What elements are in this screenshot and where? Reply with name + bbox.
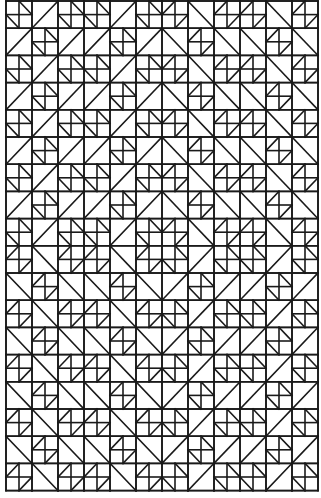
hst-diagonal (240, 137, 266, 164)
hst-diagonal (32, 409, 58, 436)
hst-diagonal (240, 327, 266, 354)
small-hst-diagonal (214, 477, 227, 491)
small-hst-diagonal (240, 423, 253, 437)
small-hst-diagonal (19, 368, 32, 382)
small-hst-diagonal (136, 178, 149, 192)
small-hst-diagonal (6, 178, 19, 192)
small-hst-diagonal (97, 1, 110, 15)
small-hst-diagonal (149, 314, 162, 328)
small-hst-diagonal (292, 314, 305, 328)
small-hst-diagonal (240, 259, 253, 273)
small-hst-diagonal (240, 1, 253, 15)
small-hst-diagonal (136, 15, 149, 29)
hst-diagonal (292, 137, 318, 164)
small-hst-diagonal (253, 232, 266, 246)
hst-diagonal (6, 83, 32, 110)
hst-diagonal (214, 137, 240, 164)
small-hst-diagonal (201, 436, 214, 450)
small-hst-diagonal (266, 341, 279, 355)
small-hst-diagonal (97, 259, 110, 273)
hst-diagonal (266, 300, 292, 327)
small-hst-diagonal (123, 137, 136, 151)
small-hst-diagonal (162, 423, 175, 437)
small-hst-diagonal (136, 355, 149, 369)
small-hst-diagonal (19, 423, 32, 437)
small-hst-diagonal (214, 55, 227, 69)
small-hst-diagonal (201, 42, 214, 56)
hst-diagonal (162, 28, 188, 55)
small-hst-diagonal (214, 368, 227, 382)
small-hst-diagonal (240, 55, 253, 69)
small-hst-diagonal (136, 69, 149, 83)
small-hst-diagonal (188, 395, 201, 409)
small-hst-diagonal (123, 28, 136, 42)
hst-diagonal (188, 55, 214, 82)
hst-diagonal (188, 164, 214, 191)
hst-diagonal (292, 28, 318, 55)
small-hst-diagonal (136, 300, 149, 314)
hst-diagonal (84, 436, 110, 463)
small-hst-diagonal (97, 110, 110, 124)
hst-diagonal (58, 382, 84, 409)
small-hst-diagonal (136, 463, 149, 477)
small-hst-diagonal (227, 300, 240, 314)
small-hst-diagonal (71, 477, 84, 491)
small-hst-diagonal (188, 341, 201, 355)
small-hst-diagonal (71, 110, 84, 124)
small-hst-diagonal (214, 1, 227, 15)
small-hst-diagonal (84, 123, 97, 137)
small-hst-diagonal (149, 164, 162, 178)
hst-diagonal (136, 191, 162, 218)
small-hst-diagonal (175, 15, 188, 29)
small-hst-diagonal (97, 368, 110, 382)
hst-diagonal (214, 191, 240, 218)
small-hst-diagonal (45, 395, 58, 409)
small-hst-diagonal (110, 151, 123, 165)
small-hst-diagonal (6, 15, 19, 29)
small-hst-diagonal (305, 463, 318, 477)
small-hst-diagonal (19, 477, 32, 491)
small-hst-diagonal (201, 205, 214, 219)
small-hst-diagonal (162, 219, 175, 233)
small-hst-diagonal (123, 287, 136, 301)
hst-diagonal (188, 409, 214, 436)
hst-diagonal (32, 55, 58, 82)
quilt-pattern (0, 0, 321, 498)
hst-diagonal (6, 28, 32, 55)
small-hst-diagonal (292, 423, 305, 437)
hst-diagonal (214, 382, 240, 409)
small-hst-diagonal (201, 327, 214, 341)
hst-diagonal (84, 273, 110, 300)
hst-diagonal (214, 273, 240, 300)
small-hst-diagonal (84, 409, 97, 423)
small-hst-diagonal (292, 164, 305, 178)
small-hst-diagonal (201, 96, 214, 110)
small-hst-diagonal (6, 409, 19, 423)
hst-diagonal (32, 355, 58, 382)
hst-diagonal (58, 273, 84, 300)
small-hst-diagonal (279, 436, 292, 450)
small-hst-diagonal (292, 110, 305, 124)
hst-diagonal (110, 246, 136, 273)
hst-diagonal (58, 327, 84, 354)
small-hst-diagonal (45, 287, 58, 301)
small-hst-diagonal (253, 246, 266, 260)
small-hst-diagonal (6, 463, 19, 477)
small-hst-diagonal (58, 178, 71, 192)
small-hst-diagonal (240, 368, 253, 382)
small-hst-diagonal (227, 409, 240, 423)
small-hst-diagonal (45, 28, 58, 42)
hst-diagonal (110, 219, 136, 246)
small-hst-diagonal (19, 314, 32, 328)
small-hst-diagonal (305, 246, 318, 260)
hst-diagonal (188, 355, 214, 382)
small-hst-diagonal (110, 436, 123, 450)
hst-diagonal (84, 28, 110, 55)
hst-diagonal (136, 83, 162, 110)
hst-diagonal (136, 137, 162, 164)
hst-diagonal (266, 219, 292, 246)
small-hst-diagonal (71, 423, 84, 437)
small-hst-diagonal (6, 123, 19, 137)
hst-diagonal (6, 382, 32, 409)
small-hst-diagonal (19, 164, 32, 178)
